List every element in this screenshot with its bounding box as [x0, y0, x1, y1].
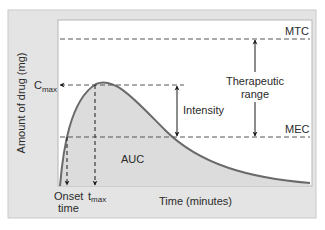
pharmacokinetic-diagram: Amount of drug (mg) Time (minutes) Cmax … [0, 0, 325, 230]
mec-label: MEC [285, 123, 310, 135]
y-axis-label: Amount of drug (mg) [15, 53, 27, 154]
auc-label: AUC [121, 153, 144, 165]
therapeutic-range-label-1: Therapeutic [226, 75, 285, 87]
therapeutic-range-label-2: range [241, 88, 269, 100]
x-axis-label: Time (minutes) [159, 195, 232, 207]
intensity-label: Intensity [183, 104, 224, 116]
mtc-label: MTC [285, 25, 309, 37]
onset-label-1: Onset [54, 190, 83, 202]
onset-label-2: time [58, 202, 79, 214]
